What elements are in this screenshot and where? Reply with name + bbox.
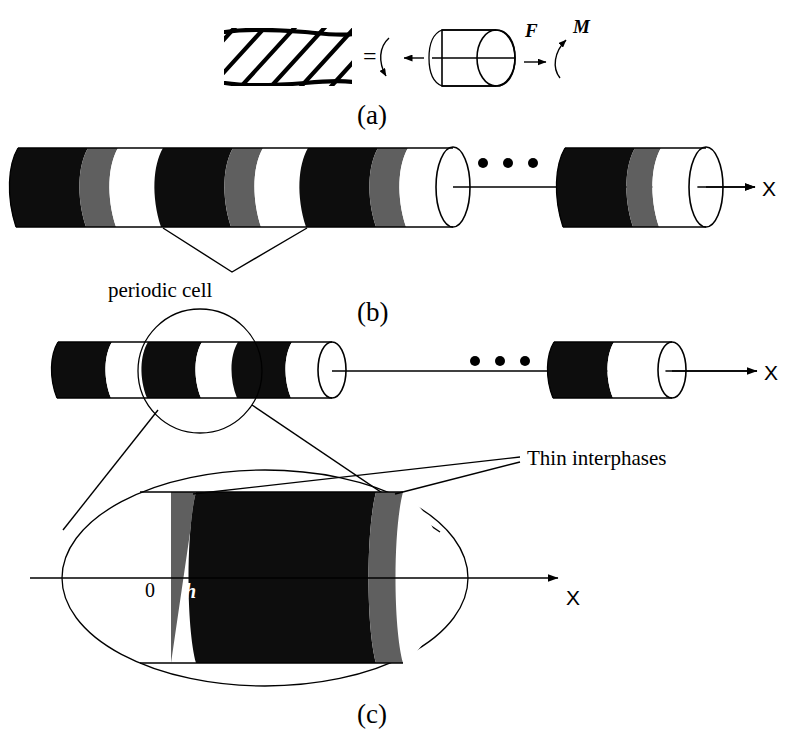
panel-c-caption: (c) bbox=[357, 699, 387, 729]
equals-sign: = bbox=[363, 43, 377, 69]
magnified-cell bbox=[160, 485, 460, 675]
axis-label-x-b: X bbox=[762, 177, 776, 200]
periodic-cell-leader bbox=[163, 228, 307, 272]
cylinder-icon bbox=[429, 30, 515, 86]
force-label-F: F bbox=[524, 20, 538, 41]
twisted-rope-icon bbox=[176, 24, 388, 92]
continuation-ellipsis-c bbox=[470, 356, 530, 366]
magnified-view: X 0 h bbox=[30, 470, 580, 686]
moment-label-M: M bbox=[572, 16, 591, 37]
continuation-ellipsis-b bbox=[478, 158, 538, 168]
panel-c-rod-left bbox=[51, 342, 346, 398]
panel-b-caption: (b) bbox=[357, 297, 388, 327]
panel-c: X bbox=[30, 309, 778, 729]
axis-label-x-magnified: X bbox=[566, 586, 580, 609]
panel-a-caption: (a) bbox=[357, 100, 387, 130]
panel-a: = bbox=[176, 16, 591, 130]
panel-c-rod-right bbox=[547, 342, 686, 398]
axis-label-x-c: X bbox=[764, 361, 778, 384]
moment-arrow-right-icon bbox=[555, 40, 566, 78]
figure-container: = bbox=[0, 0, 798, 739]
thin-interphases-label: Thin interphases bbox=[527, 446, 666, 470]
panel-b: X periodic cell (b) bbox=[9, 147, 776, 327]
banded-cylinder-left bbox=[9, 147, 470, 227]
thin-interphases-leaders bbox=[193, 457, 520, 494]
periodic-cell-label: periodic cell bbox=[108, 278, 213, 302]
thickness-label: h bbox=[185, 580, 196, 602]
origin-label: 0 bbox=[145, 579, 155, 601]
composite-cylinder-diagram: = bbox=[0, 0, 798, 739]
moment-arrow-left-icon bbox=[381, 38, 389, 76]
